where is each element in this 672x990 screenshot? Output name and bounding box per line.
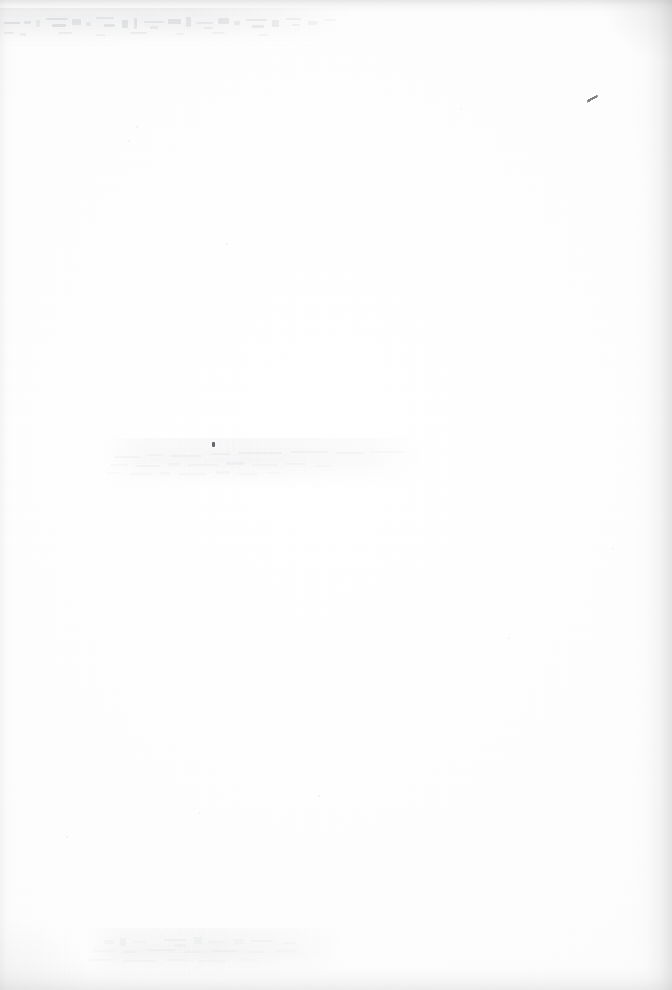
scanned-page: Blank scanned page with faint bleed-thro… — [0, 0, 672, 990]
paper-background — [0, 0, 672, 990]
